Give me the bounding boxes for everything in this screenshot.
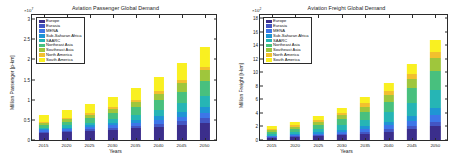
bar-segment[interactable] [84,104,94,113]
bar-segment[interactable] [199,47,209,67]
bar-segment[interactable] [61,110,71,118]
bar-segment[interactable] [430,90,440,108]
bar-segment[interactable] [430,58,440,71]
y-tick-mark-passenger [32,59,35,60]
bar-segment[interactable] [360,120,370,127]
legend-swatch-icon [39,48,45,52]
bar-segment[interactable] [383,83,393,91]
legend-label: South America [273,58,300,62]
y-axis-tick-passenger: 1.5 [24,77,30,82]
x-axis-tick-passenger: 2045 [177,143,187,148]
legend-swatch-icon [266,58,272,62]
x-tick-mark-passenger [90,138,91,141]
bar-segment[interactable] [199,81,209,96]
y-axis-tick-freight: 18 [253,16,258,21]
y-tick-mark-passenger [32,39,35,40]
bar-segment[interactable] [176,83,186,91]
y-axis-tick-passenger: 0 [27,138,30,143]
bar-segment[interactable] [407,88,417,102]
y-tick-mark-passenger [32,119,35,120]
y-tick-mark-passenger [214,99,217,100]
x-tick-mark-freight [389,15,390,18]
y-axis-tick-freight: 12 [253,56,258,61]
x-tick-mark-freight [318,138,319,141]
stacked-bar[interactable] [199,47,209,140]
x-tick-mark-freight [435,15,436,18]
stacked-bar[interactable] [107,97,117,140]
x-tick-mark-passenger [205,138,206,141]
legend-swatch-icon [266,34,272,38]
bar-segment[interactable] [130,107,140,114]
y-axis-tick-freight: 16 [253,29,258,34]
x-axis-tick-freight: 2050 [430,143,440,148]
y-tick-mark-passenger [214,39,217,40]
bar-segment[interactable] [199,70,209,81]
bar-segment[interactable] [430,115,440,122]
bar-segment[interactable] [176,103,186,112]
y-tick-mark-freight [445,72,448,73]
legend-passenger: EuropeEurasiaMENASub-Saharan AfricaSAARC… [36,17,85,64]
stacked-bar[interactable] [84,104,94,140]
bar-segment[interactable] [199,96,209,107]
stacked-bar[interactable] [176,63,186,140]
y-tick-mark-freight [260,112,263,113]
x-axis-tick-passenger: 2040 [154,143,164,148]
y-tick-mark-freight [260,72,263,73]
legend-swatch-icon [266,20,272,24]
bar-segment[interactable] [430,71,440,90]
bar-segment[interactable] [38,115,48,122]
x-axis-tick-freight: 2025 [314,143,324,148]
bar-segment[interactable] [383,112,393,121]
y-tick-mark-freight [445,140,448,141]
y-tick-mark-passenger [32,19,35,20]
bar-segment[interactable] [430,108,440,115]
bar-segment[interactable] [383,95,393,102]
stacked-bar[interactable] [360,97,370,140]
x-tick-mark-freight [435,138,436,141]
stacked-bar[interactable] [130,88,140,140]
legend-label: South America [46,58,73,62]
bar-segment[interactable] [407,103,417,116]
stacked-bar[interactable] [38,115,48,140]
chart-title-passenger: Aviation Passenger Global Demand [0,5,231,11]
x-axis-tick-freight: 2035 [360,143,370,148]
legend-swatch-icon [266,44,272,48]
y-tick-mark-freight [445,31,448,32]
bar-segment[interactable] [153,100,163,109]
legend-swatch-icon [39,44,45,48]
x-tick-mark-freight [412,15,413,18]
bar-segment[interactable] [430,40,440,52]
x-tick-mark-freight [365,138,366,141]
x-tick-mark-passenger [205,15,206,18]
y-axis-tick-passenger: 3 [27,17,30,22]
bar-segment[interactable] [360,112,370,120]
y-tick-mark-freight [445,18,448,19]
stacked-bar[interactable] [61,110,71,140]
bar-segment[interactable] [176,92,186,104]
legend-swatch-icon [266,39,272,43]
legend-item[interactable]: South America [266,57,309,62]
bar-segment[interactable] [407,79,417,88]
stacked-bar[interactable] [153,77,163,140]
y-axis-tick-freight: 6 [255,97,258,102]
legend-item[interactable]: South America [39,57,82,62]
y-tick-mark-passenger [32,79,35,80]
legend-swatch-icon [266,53,272,57]
bar-segment[interactable] [130,88,140,100]
stacked-bar[interactable] [383,83,393,140]
stacked-bar[interactable] [407,64,417,140]
x-tick-mark-passenger [113,15,114,18]
bar-segment[interactable] [153,77,163,91]
bar-segment[interactable] [407,64,417,74]
x-tick-mark-freight [272,138,273,141]
stacked-bar[interactable] [337,108,347,140]
stacked-bar[interactable] [430,40,440,140]
legend-swatch-icon [39,58,45,62]
y-tick-mark-passenger [214,79,217,80]
y-axis-tick-freight: 10 [253,70,258,75]
bar-segment[interactable] [107,97,117,108]
bar-segment[interactable] [383,102,393,113]
y-tick-mark-freight [260,126,263,127]
bar-segment[interactable] [176,63,186,80]
stacked-bar[interactable] [313,116,323,140]
